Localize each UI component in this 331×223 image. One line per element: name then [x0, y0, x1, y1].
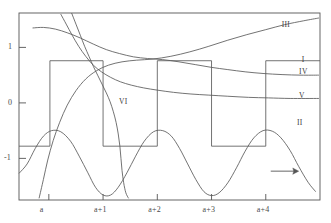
curve-v: [61, 14, 319, 98]
annotations-group: [271, 168, 299, 174]
x-tick-label: a+4: [257, 205, 270, 214]
x-tick-label: a+1: [94, 205, 107, 214]
curve-i: [19, 61, 320, 146]
curve-label-i: I: [302, 55, 305, 64]
curve-label-vi: VI: [119, 97, 128, 106]
x-tick-label: a: [40, 205, 44, 214]
curve-label-iii: III: [282, 20, 290, 29]
curve-label-iv: IV: [299, 67, 308, 76]
figure-root: aa+1a+2a+3a+410-1IIIIIIIVVVI: [0, 0, 331, 223]
direction-arrow-head: [293, 168, 299, 174]
plot-canvas: [0, 0, 331, 223]
data-series-group: [19, 13, 320, 198]
curve-ii: [19, 130, 316, 196]
curve-label-v: V: [299, 91, 305, 100]
y-tick-label: 1: [8, 42, 12, 51]
axis-ticks: [19, 47, 266, 200]
y-tick-label: -1: [4, 153, 11, 162]
x-tick-label: a+3: [203, 205, 216, 214]
curve-label-ii: II: [297, 118, 303, 127]
curve-iv: [33, 27, 319, 75]
y-tick-label: 0: [8, 98, 12, 107]
axes-border: [19, 13, 320, 200]
x-tick-label: a+2: [148, 205, 161, 214]
axes-frame: [19, 13, 320, 200]
